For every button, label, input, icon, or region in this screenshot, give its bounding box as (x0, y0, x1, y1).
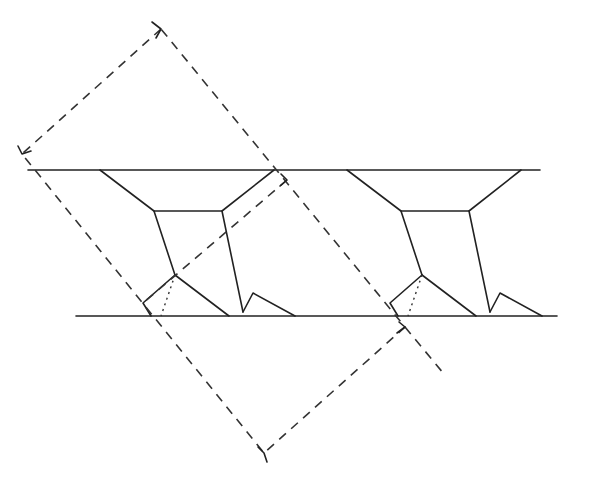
tooth (490, 293, 542, 316)
foot-back (390, 275, 422, 316)
foot-main (175, 275, 229, 316)
trapezoid-frame (347, 170, 521, 211)
tooth (243, 293, 295, 316)
dashed-outer-rect (22, 29, 405, 453)
dashed-bounding-region (18, 22, 444, 462)
module-2 (347, 170, 542, 316)
left-leg (154, 211, 175, 275)
linkage-diagram (0, 0, 601, 479)
module-1 (100, 170, 295, 316)
dashed-inner-corner (280, 174, 287, 186)
dashed-extension (405, 327, 444, 374)
trapezoid-frame (100, 170, 274, 211)
rails (28, 170, 557, 316)
foot-main (422, 275, 476, 316)
left-leg (401, 211, 422, 275)
right-leg (469, 211, 490, 312)
corner-mark (152, 22, 161, 38)
corner-mark (258, 447, 267, 462)
corner-marks (18, 22, 405, 462)
